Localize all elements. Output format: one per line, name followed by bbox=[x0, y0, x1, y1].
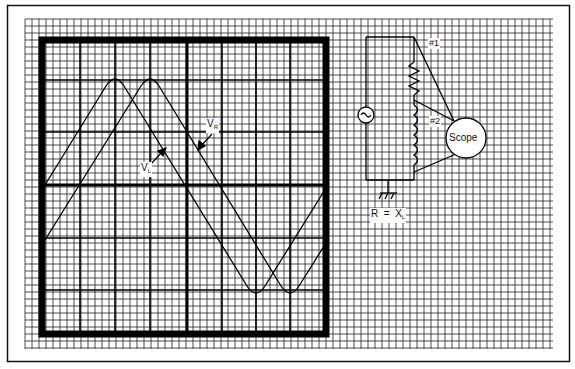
vl-label: VL bbox=[140, 162, 152, 177]
scope-label: Scope bbox=[449, 132, 477, 144]
diagram-canvas: VL VR #1 #2 Scope R = XL bbox=[0, 0, 575, 369]
probe-2-label: #2 bbox=[429, 116, 441, 127]
probe-1-label: #1 bbox=[428, 38, 440, 49]
diagram-svg bbox=[0, 0, 575, 369]
condition-label: R = XL bbox=[370, 208, 406, 223]
vr-label: VR bbox=[206, 118, 219, 133]
